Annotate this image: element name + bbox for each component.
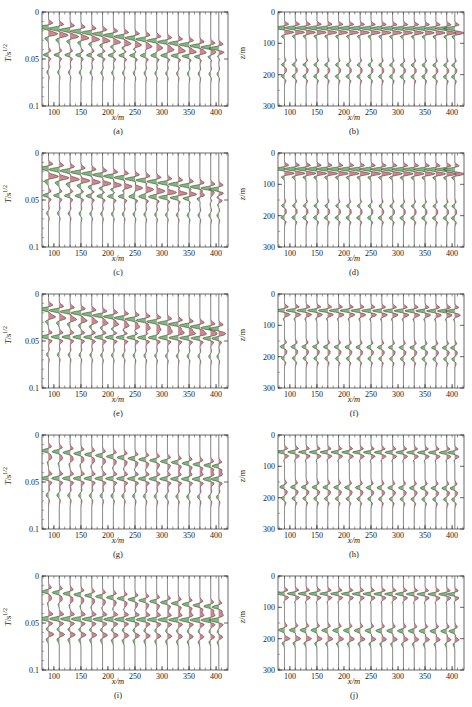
trace-line xyxy=(284,12,305,106)
y-tick-label: 0.1 xyxy=(29,525,39,534)
trace-negative-fill xyxy=(135,153,143,247)
trace-line xyxy=(201,12,216,106)
y-tick-label: 300 xyxy=(263,102,275,111)
trace-line xyxy=(338,153,359,247)
trace-positive-fill xyxy=(157,153,167,247)
trace-positive-fill xyxy=(309,576,317,670)
trace-negative-fill xyxy=(393,576,398,670)
panel-f: 1001502002503003504000100200300z/mx/m(f) xyxy=(236,282,472,423)
trace-line xyxy=(318,294,333,388)
trace-line xyxy=(309,435,321,529)
trace-negative-fill xyxy=(403,153,413,247)
trace-negative-fill xyxy=(455,576,459,670)
panel-e: 10015020025030035040000.050.1T/s1/2x/m(e… xyxy=(0,282,236,423)
trace-line xyxy=(190,576,204,670)
x-axis-label: x/m xyxy=(236,535,472,545)
panel-b: 1001502002503003504000100200300z/mx/m(b) xyxy=(236,0,472,141)
panel-caption: (b) xyxy=(236,126,472,136)
trace-line xyxy=(416,294,431,388)
trace-negative-fill xyxy=(436,435,440,529)
trace-line xyxy=(320,576,333,670)
trace-negative-fill xyxy=(92,294,98,388)
y-tick-label: 300 xyxy=(263,243,275,252)
trace-line xyxy=(93,153,111,247)
trace-line xyxy=(381,153,402,247)
trace-line xyxy=(147,153,165,247)
panel-i: 10015020025030035040000.050.1T/s1/2x/m(i… xyxy=(0,564,236,705)
trace-line xyxy=(414,12,434,106)
trace-negative-fill xyxy=(425,576,429,670)
y-tick-label: 300 xyxy=(263,384,275,393)
y-axis-label: z/m xyxy=(238,147,247,241)
trace-line xyxy=(295,12,316,106)
trace-line xyxy=(49,153,69,247)
y-tick-label: 0.05 xyxy=(25,196,39,205)
trace-line xyxy=(160,435,171,529)
y-tick-label: 0.05 xyxy=(25,478,39,487)
trace-line xyxy=(360,153,381,247)
trace-line xyxy=(103,153,121,247)
trace-negative-fill xyxy=(167,12,173,106)
y-tick-label: 200 xyxy=(263,635,275,644)
trace-positive-fill xyxy=(171,435,179,529)
trace-positive-fill xyxy=(298,576,306,670)
trace-negative-fill xyxy=(393,435,397,529)
panel-h: 1001502002503003504000100200300z/mx/m(h) xyxy=(236,423,472,564)
y-tick-label: 100 xyxy=(263,180,275,189)
trace-negative-fill xyxy=(157,12,163,106)
y-tick-label: 0 xyxy=(35,8,39,17)
trace-positive-fill xyxy=(396,435,404,529)
trace-negative-fill xyxy=(167,153,176,247)
trace-positive-fill xyxy=(138,435,146,529)
trace-negative-fill xyxy=(135,294,140,388)
trace-positive-fill xyxy=(116,435,124,529)
trace-positive-fill xyxy=(73,435,81,529)
trace-positive-fill xyxy=(286,294,295,388)
x-axis-label: x/m xyxy=(0,112,236,122)
trace-line xyxy=(116,435,127,529)
trace-negative-fill xyxy=(81,294,87,388)
trace-negative-fill xyxy=(382,12,391,106)
trace-positive-fill xyxy=(276,576,284,670)
trace-positive-fill xyxy=(330,576,338,670)
y-tick-label: 200 xyxy=(263,494,275,503)
trace-line xyxy=(370,153,391,247)
trace-line xyxy=(136,12,152,106)
trace-line xyxy=(286,294,301,388)
panel-caption: (i) xyxy=(0,690,236,700)
trace-positive-fill xyxy=(417,576,425,670)
trace-negative-fill xyxy=(393,12,402,106)
trace-positive-fill xyxy=(353,435,361,529)
y-tick-label: 0.1 xyxy=(29,384,39,393)
trace-line xyxy=(190,294,207,388)
trace-negative-fill xyxy=(349,435,353,529)
trace-negative-fill xyxy=(178,294,184,388)
trace-negative-fill xyxy=(200,153,205,247)
trace-line xyxy=(103,12,121,106)
trace-negative-fill xyxy=(124,294,129,388)
trace-negative-fill xyxy=(103,12,111,106)
trace-positive-fill xyxy=(395,576,403,670)
trace-positive-fill xyxy=(179,12,189,106)
y-tick-label: 0.1 xyxy=(29,666,39,675)
trace-positive-fill xyxy=(439,435,447,529)
trace-positive-fill xyxy=(341,576,349,670)
y-tick-label: 0 xyxy=(35,572,39,581)
trace-negative-fill xyxy=(414,435,418,529)
y-axis-label: T/s1/2 xyxy=(2,570,12,664)
y-tick-label: 0.05 xyxy=(25,619,39,628)
trace-positive-fill xyxy=(168,12,178,106)
y-tick-label: 100 xyxy=(263,462,275,471)
trace-negative-fill xyxy=(146,12,152,106)
figure-seismic-wiggle-grid: 10015020025030035040000.050.1T/s1/2x/m(a… xyxy=(0,0,472,707)
trace-negative-fill xyxy=(48,12,57,106)
trace-line xyxy=(298,435,310,529)
trace-line xyxy=(169,576,183,670)
trace-positive-fill xyxy=(320,576,328,670)
trace-line xyxy=(435,153,456,247)
trace-positive-fill xyxy=(192,435,200,529)
panel-a: 10015020025030035040000.050.1T/s1/2x/m(a… xyxy=(0,0,236,141)
trace-positive-fill xyxy=(106,435,114,529)
trace-line xyxy=(211,435,223,529)
trace-line xyxy=(340,294,355,388)
